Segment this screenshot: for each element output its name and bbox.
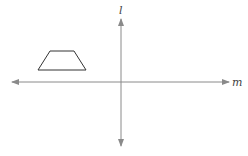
axis-label-m: m [232,76,242,89]
axis-label-l: l [119,4,123,17]
trapezoid-shape [38,51,86,70]
diagram-canvas: l m [0,0,248,156]
